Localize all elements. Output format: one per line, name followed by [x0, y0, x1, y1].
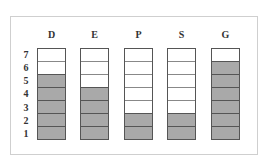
- level-cell: [125, 126, 152, 139]
- column-d: [37, 48, 66, 140]
- level-cell: [38, 87, 65, 100]
- level-cell: [81, 74, 108, 87]
- level-cell: [125, 49, 152, 61]
- level-cell: [125, 87, 152, 100]
- level-cell: [168, 74, 195, 87]
- level-cell: [38, 100, 65, 113]
- level-cell: [168, 100, 195, 113]
- level-label: 6: [20, 61, 32, 74]
- level-cell: [212, 49, 239, 61]
- column-e: [80, 48, 109, 140]
- level-label: 4: [20, 87, 32, 100]
- level-cell: [212, 113, 239, 126]
- level-cell: [212, 61, 239, 74]
- column-label: G: [211, 29, 240, 40]
- level-cell: [168, 113, 195, 126]
- column-label: P: [124, 29, 153, 40]
- level-cell: [81, 87, 108, 100]
- level-label: 5: [20, 74, 32, 87]
- level-cell: [125, 61, 152, 74]
- level-cell: [212, 126, 239, 139]
- level-cell: [212, 87, 239, 100]
- level-label: 7: [20, 48, 32, 61]
- level-label: 2: [20, 114, 32, 127]
- column-g: [211, 48, 240, 140]
- level-cell: [125, 100, 152, 113]
- level-cell: [81, 126, 108, 139]
- column-s: [167, 48, 196, 140]
- level-cell: [81, 113, 108, 126]
- column-label: S: [167, 29, 196, 40]
- level-cell: [125, 113, 152, 126]
- level-cell: [168, 126, 195, 139]
- level-cell: [38, 126, 65, 139]
- level-cell: [81, 49, 108, 61]
- level-cell: [81, 100, 108, 113]
- level-cell: [38, 61, 65, 74]
- level-cell: [212, 74, 239, 87]
- level-label: 3: [20, 101, 32, 114]
- level-cell: [212, 100, 239, 113]
- level-cell: [38, 49, 65, 61]
- level-label: 1: [20, 127, 32, 140]
- level-cell: [125, 74, 152, 87]
- column-label: D: [37, 29, 66, 40]
- level-cell: [168, 61, 195, 74]
- level-cell: [38, 74, 65, 87]
- level-cell: [81, 61, 108, 74]
- column-label: E: [80, 29, 109, 40]
- level-cell: [168, 87, 195, 100]
- level-cell: [168, 49, 195, 61]
- column-p: [124, 48, 153, 140]
- level-cell: [38, 113, 65, 126]
